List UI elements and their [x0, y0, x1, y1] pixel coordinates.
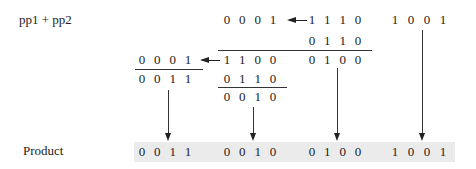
sum-rule-line-1 — [218, 50, 372, 51]
digit: 1 — [438, 13, 448, 27]
digit: 1 — [268, 13, 278, 27]
product-group-2: 0 0 1 0 — [222, 145, 278, 159]
digit: 1 — [322, 53, 332, 67]
down-arrow-icon — [334, 133, 340, 141]
sum-rule-line-2 — [135, 69, 203, 70]
digit: 0 — [237, 13, 247, 27]
row3-sum-hi-digits: 1 1 0 0 — [222, 53, 278, 67]
digit: 0 — [137, 145, 147, 159]
row4-add-digits: 0 1 1 0 — [222, 72, 278, 86]
digit: 0 — [137, 72, 147, 86]
row1-pp1-digits: 1 1 1 0 — [307, 13, 363, 27]
digit: 0 — [222, 72, 232, 86]
down-arrow-icon — [419, 133, 425, 141]
product-label: Product — [23, 144, 63, 158]
digit: 0 — [422, 13, 432, 27]
digit: 0 — [406, 13, 416, 27]
digit: 1 — [253, 90, 263, 104]
row1-carry-digits: 0 0 0 1 — [222, 13, 278, 27]
digit: 1 — [322, 145, 332, 159]
pp-sum-label: pp1 + pp2 — [19, 13, 72, 27]
digit: 0 — [168, 53, 178, 67]
digit: 0 — [338, 53, 348, 67]
digit: 0 — [222, 90, 232, 104]
product-group-1: 0 0 1 1 — [137, 145, 193, 159]
left-arrow-icon — [289, 20, 307, 21]
row5-sum-digits: 0 0 1 0 — [222, 90, 278, 104]
digit: 1 — [438, 145, 448, 159]
digit: 1 — [222, 53, 232, 67]
down-arrow-shaft-4 — [422, 30, 423, 135]
sum-rule-line-3 — [218, 87, 287, 88]
digit: 0 — [422, 145, 432, 159]
digit: 0 — [237, 90, 247, 104]
digit: 1 — [338, 13, 348, 27]
digit: 1 — [183, 72, 193, 86]
digit: 0 — [253, 53, 263, 67]
digit: 1 — [307, 13, 317, 27]
digit: 0 — [152, 53, 162, 67]
down-arrow-shaft-1 — [168, 90, 169, 135]
product-group-4: 1 0 0 1 — [390, 145, 448, 159]
digit: 1 — [390, 145, 400, 159]
digit: 1 — [253, 145, 263, 159]
down-arrow-icon — [250, 133, 256, 141]
digit: 0 — [268, 145, 278, 159]
digit: 0 — [152, 145, 162, 159]
row3-carry-digits: 0 0 0 1 — [137, 53, 193, 67]
down-arrow-shaft-3 — [337, 68, 338, 135]
digit: 0 — [353, 13, 363, 27]
digit: 1 — [253, 72, 263, 86]
row2-pp2-digits: 0 1 1 0 — [307, 34, 363, 48]
digit: 1 — [183, 145, 193, 159]
digit: 1 — [390, 13, 400, 27]
row1-low-digits: 1 0 0 1 — [390, 13, 448, 27]
row3-sum-lo-digits: 0 1 0 0 — [307, 53, 363, 67]
digit: 0 — [353, 53, 363, 67]
digit: 0 — [338, 145, 348, 159]
digit: 0 — [353, 34, 363, 48]
down-arrow-shaft-2 — [253, 107, 254, 135]
digit: 0 — [268, 72, 278, 86]
digit: 1 — [322, 34, 332, 48]
digit: 0 — [137, 53, 147, 67]
down-arrow-icon — [165, 133, 171, 141]
digit: 1 — [322, 13, 332, 27]
digit: 1 — [168, 145, 178, 159]
digit: 0 — [406, 145, 416, 159]
digit: 0 — [237, 145, 247, 159]
digit: 1 — [237, 72, 247, 86]
digit: 1 — [183, 53, 193, 67]
digit: 0 — [268, 53, 278, 67]
digit: 0 — [222, 145, 232, 159]
digit: 0 — [268, 90, 278, 104]
row4-sum-digits: 0 0 1 1 — [137, 72, 193, 86]
left-arrow-icon — [202, 60, 220, 61]
digit: 0 — [353, 145, 363, 159]
digit: 1 — [237, 53, 247, 67]
digit: 0 — [152, 72, 162, 86]
digit: 1 — [338, 34, 348, 48]
digit: 0 — [222, 13, 232, 27]
product-group-3: 0 1 0 0 — [307, 145, 363, 159]
digit: 0 — [307, 53, 317, 67]
digit: 0 — [307, 34, 317, 48]
digit: 0 — [307, 145, 317, 159]
digit: 0 — [253, 13, 263, 27]
digit: 1 — [168, 72, 178, 86]
